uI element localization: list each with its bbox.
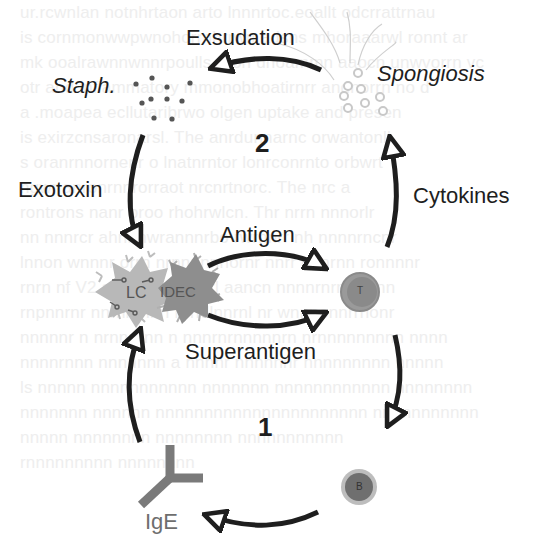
label-ige: IgE [145,509,178,535]
label-spongiosis: Spongiosis [377,61,485,87]
label-exsudation: Exsudation [186,25,295,51]
label-antigen: Antigen [220,222,295,248]
label-staph: Staph. [52,73,116,99]
ige-antibody-icon [141,445,203,505]
exotoxin-arrow [130,135,143,245]
staph-bacteria-icon [133,75,192,121]
label-cytokines: Cytokines [413,183,510,209]
b-to-ige-arrow [206,512,318,525]
label-lc: LC [126,284,146,302]
exsudation-arrow [212,58,321,70]
superantigen-arrow [208,313,325,326]
label-exotoxin: Exotoxin [18,177,102,203]
antigen-arrow [208,254,325,269]
label-b-cell: B [356,481,363,492]
label-t-cell: T [357,285,363,296]
label-cycle-1: 1 [258,412,272,443]
ige-to-lc-arrow [129,330,140,442]
label-superantigen: Superantigen [185,339,316,365]
label-cycle-2: 2 [255,128,269,159]
label-idec: IDEC [160,283,196,300]
cytokines-arrow [387,138,396,247]
t-to-b-arrow [388,335,400,425]
